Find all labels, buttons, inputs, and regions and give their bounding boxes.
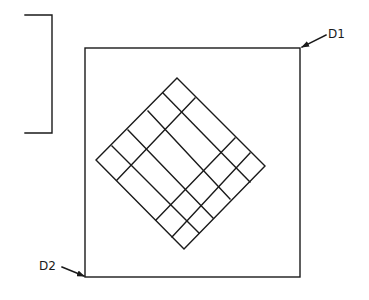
label-d1: D1 — [328, 27, 345, 41]
side-bracket — [25, 15, 52, 133]
outer-frame — [85, 48, 300, 277]
grid-line — [172, 153, 250, 237]
leader-d1-arrow — [302, 35, 326, 47]
label-d2: D2 — [39, 259, 56, 273]
grid-line — [117, 98, 195, 180]
technical-drawing: D1 D2 — [0, 0, 369, 300]
grid-line — [156, 138, 235, 220]
leader-d2-arrow — [62, 267, 84, 276]
